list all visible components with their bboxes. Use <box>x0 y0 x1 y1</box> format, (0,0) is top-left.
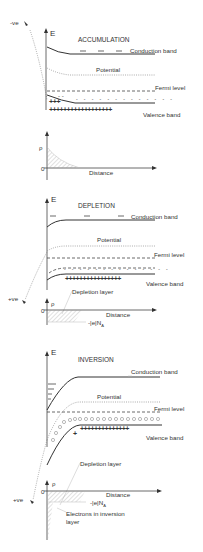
energy-axis-label: E <box>50 29 55 38</box>
gate-voltage-line <box>30 30 47 100</box>
gate-voltage-line <box>25 252 47 300</box>
axis-arrow-icon <box>157 489 162 493</box>
inversion-label: Electrons in inversion <box>66 510 125 517</box>
axis-arrow-icon <box>44 28 48 33</box>
energy-axis-label: E <box>51 348 56 357</box>
minus-row: - - - - - - - - - - - - - - <box>64 266 170 272</box>
panel-title: DEPLETION <box>78 202 115 209</box>
gate-arrow-icon <box>22 300 26 304</box>
depletion-layer-label: Depletion layer <box>72 288 113 295</box>
potential-label: Potential <box>96 66 120 73</box>
rho-label: ρ <box>51 300 55 307</box>
rho-label: ρ <box>52 480 56 487</box>
fermi-level-label: Fermi level <box>154 405 184 412</box>
conduction-band-label: Conduction band <box>131 368 178 375</box>
rho-label: ρ <box>39 144 43 151</box>
plus-row: ++++++++++++++ <box>80 425 129 432</box>
potential-line <box>47 402 160 440</box>
axis-arrow-icon <box>45 298 49 303</box>
mos-band-diagram: -ve E ACCUMULATION Conduction band Poten… <box>0 0 203 552</box>
plus-row: ++++++++++++++++ <box>65 275 121 282</box>
conduction-band-label: Conduction band <box>131 213 178 220</box>
potential-line <box>47 246 155 251</box>
distance-label: Distance <box>106 491 131 498</box>
fermi-level-label: Fermi level <box>155 84 185 91</box>
gate-voltage-label: +ve <box>13 496 24 503</box>
fermi-level-label: Fermi level <box>154 251 184 258</box>
svg-text:++++++++++++++++++: ++++++++++++++++++ <box>49 106 112 113</box>
conduction-band-line <box>47 220 155 227</box>
depletion-charge-region <box>48 491 85 502</box>
svg-text:- - - - - - - - - - - - -: - - - - - - - - - - - - - <box>76 96 174 102</box>
charge-region <box>47 147 80 168</box>
inversion-label: layer <box>66 518 79 525</box>
depletion-charge-region <box>47 310 83 322</box>
axis-arrow-icon <box>45 480 49 485</box>
gate-arrow-icon <box>30 500 34 504</box>
potential-label: Potential <box>97 236 121 243</box>
accumulation-panel: -ve E ACCUMULATION Conduction band Poten… <box>10 19 185 180</box>
inversion-charge-spike <box>47 502 53 540</box>
potential-label: Potential <box>97 393 121 400</box>
axis-arrow-icon <box>45 198 49 203</box>
conduction-band-label: Conduction band <box>130 47 177 54</box>
charge-label: -|e|NA <box>90 499 106 508</box>
gate-voltage-label: +ve <box>8 295 19 302</box>
distance-label: Distance <box>89 169 114 176</box>
gate-voltage-label: -ve <box>10 19 19 26</box>
pointer-line <box>57 508 66 512</box>
charge-label: -|e|NA <box>88 319 104 328</box>
zero-label: 0 <box>41 165 45 172</box>
depletion-panel: E DEPLETION Conduction band Potential Fe… <box>8 195 184 328</box>
gate-arrow-icon <box>24 21 28 26</box>
depletion-layer-label: Depletion layer <box>80 460 121 467</box>
zero-label: 0 <box>41 307 45 314</box>
axis-arrow-icon <box>45 131 49 136</box>
svg-text:+++: +++ <box>49 98 60 105</box>
energy-axis-label: E <box>51 195 56 204</box>
panel-title: INVERSION <box>78 356 114 363</box>
axis-arrow-icon <box>152 166 157 170</box>
axis-arrow-icon <box>152 308 157 312</box>
distance-label: Distance <box>106 311 131 318</box>
inversion-panel: E INVERSION Conduction band Potential Fe… <box>13 348 184 540</box>
valence-band-label: Valence band <box>146 280 184 287</box>
axis-arrow-icon <box>45 351 49 356</box>
valence-band-label: Valence band <box>146 434 184 441</box>
plus-row: + <box>73 430 77 437</box>
zero-label: 0 <box>41 488 45 495</box>
panel-title: ACCUMULATION <box>78 36 130 43</box>
valence-band-label: Valence band <box>143 111 181 118</box>
